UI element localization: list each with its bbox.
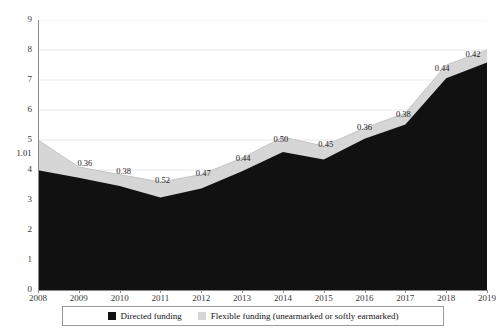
- x-axis-tick-mark: [201, 290, 202, 293]
- data-label: 0.45: [318, 140, 333, 149]
- data-label: 0.50: [273, 134, 288, 143]
- data-label: 0.44: [435, 63, 450, 72]
- x-axis-tick-mark: [487, 290, 488, 293]
- data-label: 0.36: [357, 123, 372, 132]
- x-axis-tick-mark: [160, 290, 161, 293]
- x-axis-tick-mark: [405, 290, 406, 293]
- x-axis-tick-mark: [283, 290, 284, 293]
- x-axis-tick-mark: [446, 290, 447, 293]
- data-label: 1.01: [17, 149, 32, 158]
- legend-swatch-flexible: [198, 312, 206, 320]
- data-label: 0.52: [155, 176, 170, 185]
- legend-label-flexible: Flexible funding (unearmarked or softly …: [211, 312, 399, 321]
- data-label: 0.38: [116, 167, 131, 176]
- legend-item-flexible-funding: Flexible funding (unearmarked or softly …: [198, 312, 399, 321]
- x-axis-tick-mark: [242, 290, 243, 293]
- data-label: 0.42: [466, 50, 481, 59]
- x-axis-tick-mark: [365, 290, 366, 293]
- legend-label-directed: Directed funding: [121, 312, 182, 321]
- chart-container: 0123456789 20082009201020112012201320142…: [0, 0, 502, 334]
- data-label: 0.36: [77, 159, 92, 168]
- x-axis-tick-mark: [79, 290, 80, 293]
- data-label: 0.38: [396, 109, 411, 118]
- legend-item-directed-funding: Directed funding: [108, 312, 182, 321]
- x-axis-tick-mark: [120, 290, 121, 293]
- legend-swatch-directed: [108, 312, 116, 320]
- x-axis-tick-mark: [324, 290, 325, 293]
- data-label: 0.47: [196, 168, 211, 177]
- x-axis-tick-mark: [38, 290, 39, 293]
- chart-legend: Directed funding Flexible funding (unear…: [62, 306, 444, 326]
- data-label: 0.44: [236, 153, 251, 162]
- data-label-layer: 1.010.360.380.520.470.440.500.450.360.38…: [0, 0, 502, 334]
